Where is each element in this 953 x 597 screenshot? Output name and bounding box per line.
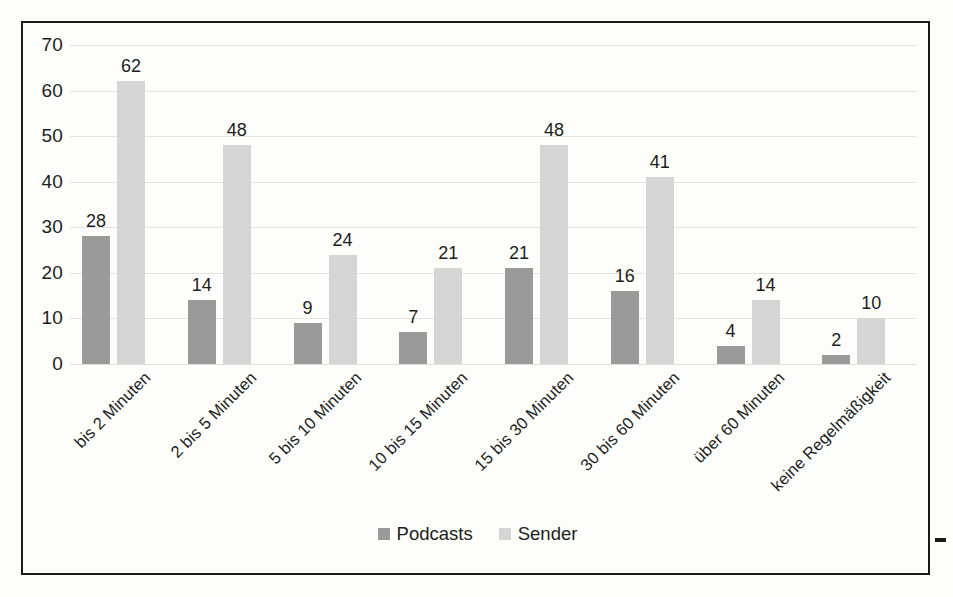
- y-tick-label-40: 40: [23, 171, 63, 193]
- legend-swatch-icon: [499, 528, 511, 540]
- bar: [294, 323, 322, 364]
- bar-group: 2148: [493, 45, 599, 364]
- bar-value-label: 10: [843, 293, 899, 314]
- bar-group: 1448: [176, 45, 282, 364]
- bar-value-label: 21: [420, 243, 476, 264]
- bar-value-label: 4: [703, 321, 759, 342]
- legend-label: Sender: [518, 523, 578, 545]
- legend-item: Podcasts: [378, 523, 473, 545]
- bar-value-label: 21: [491, 243, 547, 264]
- bar: [857, 318, 885, 364]
- bar: [717, 346, 745, 364]
- bar-value-label: 9: [280, 298, 336, 319]
- bar: [82, 236, 110, 364]
- bar-value-label: 16: [597, 266, 653, 287]
- bar: [540, 145, 568, 364]
- bar-value-label: 48: [209, 120, 265, 141]
- gridline-0: [70, 364, 916, 365]
- y-tick-label-0: 0: [23, 353, 63, 375]
- y-tick-label-30: 30: [23, 216, 63, 238]
- x-axis-label: keine Regelmäßigkeit: [768, 368, 895, 495]
- x-axis-label: 10 bis 15 Minuten: [365, 368, 472, 475]
- bar-value-label: 28: [68, 211, 124, 232]
- bar-group: 210: [810, 45, 916, 364]
- bar: [399, 332, 427, 364]
- bar-chart-plot: 706050403020100 286214489247212148164141…: [23, 23, 932, 577]
- bar: [434, 268, 462, 364]
- bar: [117, 81, 145, 364]
- x-axis-label: bis 2 Minuten: [71, 368, 155, 452]
- bar: [188, 300, 216, 364]
- x-axis-label: 5 bis 10 Minuten: [266, 368, 366, 468]
- x-axis-label: 30 bis 60 Minuten: [576, 368, 683, 475]
- bar-value-label: 7: [385, 307, 441, 328]
- bar-value-label: 2: [808, 330, 864, 351]
- x-axis-label: 2 bis 5 Minuten: [166, 368, 260, 462]
- bar: [329, 255, 357, 364]
- bar: [611, 291, 639, 364]
- x-axis-category-labels: bis 2 Minuten2 bis 5 Minuten5 bis 10 Min…: [70, 368, 916, 488]
- chart-frame: 706050403020100 286214489247212148164141…: [21, 21, 930, 575]
- bar-group: 721: [387, 45, 493, 364]
- bar-value-label: 62: [103, 56, 159, 77]
- bar-value-label: 41: [632, 152, 688, 173]
- bar-value-label: 14: [174, 275, 230, 296]
- bar-groups: 2862144892472121481641414210: [70, 45, 916, 364]
- bar-group: 2862: [70, 45, 176, 364]
- y-tick-label-70: 70: [23, 34, 63, 56]
- legend-label: Podcasts: [397, 523, 473, 545]
- bar: [752, 300, 780, 364]
- legend-item: Sender: [499, 523, 578, 545]
- legend-swatch-icon: [378, 528, 390, 540]
- y-tick-label-60: 60: [23, 80, 63, 102]
- bar-group: 414: [705, 45, 811, 364]
- bar-value-label: 14: [738, 275, 794, 296]
- x-axis-label: 15 bis 30 Minuten: [471, 368, 578, 475]
- bar-value-label: 48: [526, 120, 582, 141]
- chart-legend: PodcastsSender: [23, 523, 932, 545]
- bar-group: 924: [282, 45, 388, 364]
- bar: [822, 355, 850, 364]
- bar: [223, 145, 251, 364]
- bar: [505, 268, 533, 364]
- bar: [646, 177, 674, 364]
- bar-value-label: 24: [315, 230, 371, 251]
- bar-group: 1641: [599, 45, 705, 364]
- x-axis-label: über 60 Minuten: [690, 368, 789, 467]
- y-axis-tick-labels: 706050403020100: [23, 45, 63, 364]
- y-tick-label-10: 10: [23, 307, 63, 329]
- y-tick-label-50: 50: [23, 125, 63, 147]
- y-tick-label-20: 20: [23, 262, 63, 284]
- page-edge-mark: [935, 538, 946, 542]
